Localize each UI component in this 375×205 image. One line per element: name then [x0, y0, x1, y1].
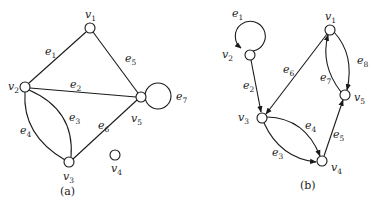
edge-label-a-e2: e2	[70, 78, 82, 93]
edge-label-a-e1: e1	[45, 45, 56, 60]
edge-label-b-e8: e8	[357, 54, 369, 69]
vertex-a-v3	[64, 157, 74, 167]
vertex-label-b-v1: v1	[325, 10, 336, 25]
edge-a-e1	[29, 32, 86, 83]
vertex-label-b-v5: v5	[354, 91, 365, 106]
vertex-b-v5	[340, 90, 350, 100]
graph-a: v1v2v3v4v5e1e2e3e4e5e6e7 (a)	[8, 8, 188, 198]
vertex-a-v2	[20, 82, 30, 92]
graph-figure: v1v2v3v4v5e1e2e3e4e5e6e7 (a) v1v2v3v4v5e…	[0, 0, 375, 205]
vertex-a-v5	[136, 92, 146, 102]
edge-label-a-e6: e6	[98, 119, 110, 134]
caption-b: (b)	[300, 179, 316, 192]
vertex-label-a-v4: v4	[111, 162, 122, 177]
edge-label-b-e2: e2	[243, 79, 255, 94]
edge-label-a-e7: e7	[176, 90, 188, 105]
edge-a-e3	[29, 90, 71, 157]
vertex-label-a-v2: v2	[8, 80, 19, 95]
vertex-b-v3	[257, 113, 267, 123]
vertex-b-v2	[245, 50, 255, 60]
edge-label-a-e5: e5	[125, 52, 137, 67]
edge-a-e7-loop	[145, 83, 171, 109]
edge-label-b-e4: e4	[305, 119, 317, 134]
edge-label-b-e5: e5	[333, 128, 345, 143]
edge-a-e2	[30, 88, 136, 97]
vertex-b-v4	[317, 156, 327, 166]
vertex-a-v4	[110, 150, 120, 160]
vertex-label-b-v4: v4	[331, 161, 342, 176]
edge-b-e6	[266, 34, 327, 114]
vertex-label-b-v2: v2	[222, 48, 233, 63]
vertex-b-v1	[325, 25, 335, 35]
vertex-label-a-v1: v1	[85, 8, 96, 23]
edge-b-e1-loop	[235, 21, 265, 51]
edge-label-a-e3: e3	[69, 111, 81, 126]
vertex-a-v1	[85, 23, 95, 33]
edge-label-b-e6: e6	[283, 63, 295, 78]
graph-b: v1v2v3v4v5e1e2e3e4e5e6e7e8 (b)	[222, 7, 369, 192]
caption-a: (a)	[60, 185, 75, 198]
edge-a-e4	[25, 92, 65, 160]
edge-b-e8	[334, 32, 349, 90]
edge-label-b-e1: e1	[232, 7, 243, 22]
vertex-label-a-v3: v3	[63, 170, 74, 185]
vertex-label-a-v5: v5	[131, 112, 142, 127]
edge-label-a-e4: e4	[20, 124, 32, 139]
vertex-label-b-v3: v3	[238, 111, 249, 126]
